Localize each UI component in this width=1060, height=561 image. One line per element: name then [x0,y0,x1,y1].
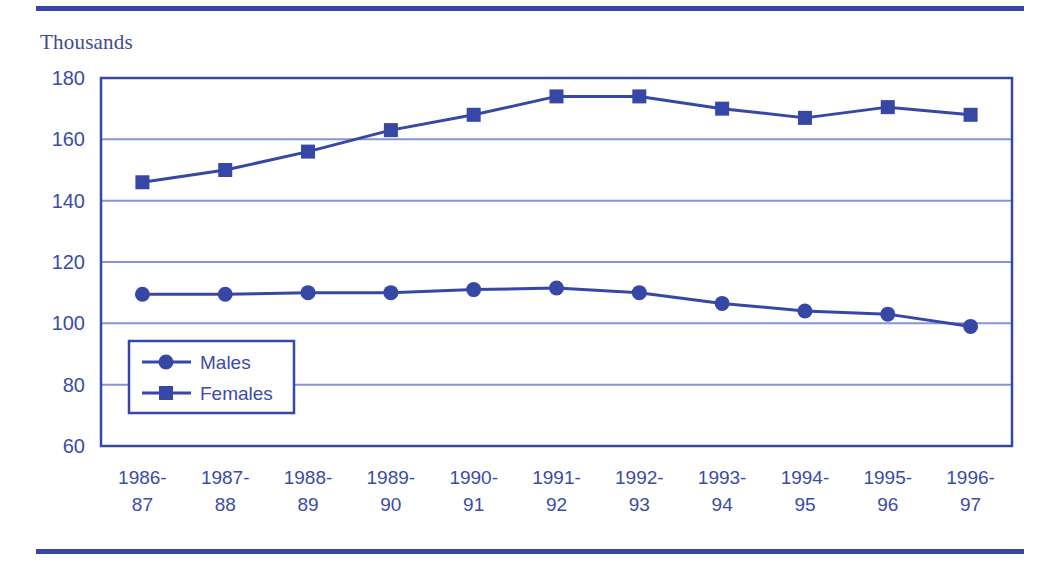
data-point-marker [798,111,812,125]
data-point-marker [218,163,232,177]
data-point-marker [963,319,978,334]
y-tick-label: 140 [52,190,85,212]
data-point-marker [384,123,398,137]
data-point-marker [383,285,398,300]
data-point-marker [549,281,564,296]
x-tick-label: 1986-87 [118,467,167,515]
line-chart: 60801001201401601801986-871987-881988-89… [0,0,1060,561]
x-tick-label: 1991-92 [532,467,581,515]
data-point-marker [466,282,481,297]
x-tick-label: 1992-93 [615,467,664,515]
data-point-marker [467,108,481,122]
y-tick-label: 80 [63,374,85,396]
y-tick-label: 100 [52,312,85,334]
data-point-marker [218,287,233,302]
data-point-marker [301,145,315,159]
y-tick-label: 60 [63,435,85,457]
data-point-marker [881,100,895,114]
legend-label: Males [200,352,251,373]
data-point-marker [964,108,978,122]
legend-label: Females [200,383,273,404]
x-tick-label: 1990-91 [449,467,498,515]
data-point-marker [135,175,149,189]
legend: MalesFemales [129,341,294,413]
data-point-marker [632,285,647,300]
data-point-marker [797,304,812,319]
data-point-marker [135,287,150,302]
data-point-marker [550,89,564,103]
data-point-marker [632,89,646,103]
legend-marker [159,355,174,370]
y-tick-label: 160 [52,128,85,150]
x-axis: 1986-871987-881988-891989-901990-911991-… [118,467,995,515]
x-tick-label: 1996-97 [946,467,995,515]
x-tick-label: 1993-94 [698,467,747,515]
y-axis: 6080100120140160180 [52,67,85,457]
x-tick-label: 1987-88 [201,467,250,515]
legend-marker [159,386,173,400]
x-tick-label: 1995-96 [863,467,912,515]
x-tick-label: 1988-89 [284,467,333,515]
data-point-marker [715,296,730,311]
data-point-marker [301,285,316,300]
y-tick-label: 120 [52,251,85,273]
x-tick-label: 1989-90 [367,467,416,515]
y-tick-label: 180 [52,67,85,89]
x-tick-label: 1994-95 [781,467,830,515]
data-point-marker [880,307,895,322]
data-point-marker [715,102,729,116]
